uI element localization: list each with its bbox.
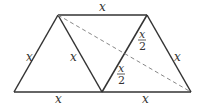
edge-right [147, 15, 191, 92]
fraction-upper: x 2 [138, 28, 146, 53]
fraction-upper-den: 2 [139, 40, 146, 53]
fraction-lower: x 2 [117, 62, 125, 87]
fraction-lower-den: 2 [118, 74, 125, 87]
trapezoid-diagram: x x x x x x x 2 x 2 [0, 0, 200, 108]
edge-inner-left [58, 15, 102, 92]
label-right-side: x [174, 50, 181, 64]
label-bottom-left: x [55, 92, 62, 106]
edge-left [14, 15, 58, 92]
label-bottom-right: x [142, 92, 149, 106]
label-inner-left: x [70, 50, 77, 64]
label-top: x [99, 0, 106, 14]
label-left-side: x [26, 50, 33, 64]
